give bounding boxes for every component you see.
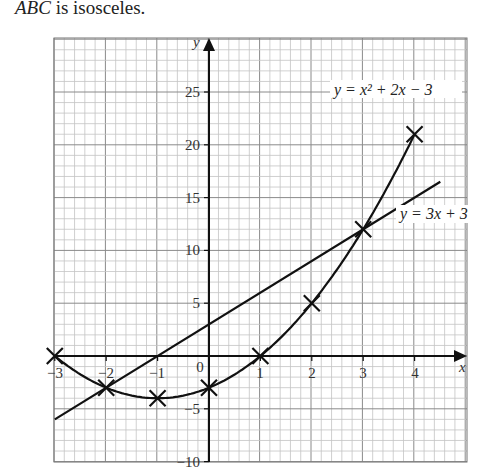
y-tick-label: −10 <box>177 454 200 470</box>
x-tick-label: −1 <box>149 365 165 381</box>
x-tick-label: −2 <box>98 365 114 381</box>
y-tick-label: −5 <box>184 401 200 417</box>
y-tick-label: 20 <box>185 137 200 153</box>
axis-labels: −3 −2 −1 0 1 2 3 4 25 20 15 10 5 −5 −10 … <box>47 34 482 470</box>
grid-paper <box>54 38 467 462</box>
graph: −3 −2 −1 0 1 2 3 4 25 20 15 10 5 −5 −10 … <box>0 0 482 471</box>
x-tick-label: 3 <box>359 365 367 381</box>
origin-label: 0 <box>196 359 204 375</box>
line-y-3x-3 <box>55 182 441 420</box>
y-tick-label: 10 <box>185 242 200 258</box>
x-tick-label: −3 <box>47 365 63 381</box>
x-tick-label: 4 <box>411 365 419 381</box>
x-tick-label: 1 <box>256 365 264 381</box>
y-tick-label: 15 <box>185 190 200 206</box>
x-tick-label: 2 <box>308 365 316 381</box>
parabola-curve <box>55 134 415 398</box>
y-axis-label: y <box>191 34 200 50</box>
line-equation-label: y = 3x + 3 <box>398 205 468 223</box>
y-tick-label: 25 <box>185 84 200 100</box>
y-tick-label: 5 <box>193 295 201 311</box>
y-axis-arrow-icon <box>203 38 215 51</box>
x-axis-label: x <box>458 359 466 375</box>
parabola-equation-label: y = x² + 2x − 3 <box>332 81 433 99</box>
